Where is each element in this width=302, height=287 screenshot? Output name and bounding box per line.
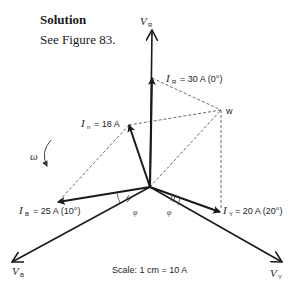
vy-label: V Y [270,267,282,280]
in-label: I n = 18 A [80,117,120,130]
phi-label-right: φ [167,208,172,217]
svg-text:R: R [172,79,177,85]
current-phasors [58,78,220,212]
rotation-indicator: ω [30,140,51,166]
ib-label: I B = 25 A (10°) [18,204,80,217]
vb-label: V B [12,265,24,278]
svg-text:I: I [165,72,171,84]
svg-text:Y: Y [229,211,233,217]
dashed-origin-to-w [150,110,221,187]
iy-label: I Y = 20 A (20°) [222,204,282,217]
phi-angle-marks: φ φ [117,193,180,217]
svg-text:I: I [222,204,228,216]
ir-label: I R = 30 A (0°) [165,72,222,85]
point-w-label: w [225,106,233,116]
ir-arrow [150,78,152,187]
svg-text:V: V [12,265,20,277]
omega-label: ω [30,150,38,162]
dashed-in-to-w [129,110,221,125]
vy-arrow [150,187,282,262]
in-arrow [129,125,150,187]
scale-label: Scale: 1 cm = 10 A [112,265,187,275]
svg-text:R: R [148,22,153,28]
phi-label-left: φ [133,208,138,217]
svg-text:B: B [25,211,29,217]
iy-arrow [150,187,220,212]
svg-text:V: V [140,15,148,27]
dashed-in-to-ib [58,125,129,202]
svg-text:B: B [20,272,24,278]
svg-text:I: I [80,117,86,129]
phasor-diagram: φ φ ω w V R V B V Y I R = 30 A (0°) I n … [0,0,302,287]
svg-text:Y: Y [278,274,282,280]
svg-text:= 25 A (10°): = 25 A (10°) [33,206,80,216]
svg-text:V: V [270,267,278,279]
rotation-arrow-icon [44,140,51,166]
vr-label: V R [140,15,153,28]
voltage-phasors [12,30,282,262]
svg-text:n: n [87,124,90,130]
svg-text:= 18 A: = 18 A [94,119,120,129]
svg-text:= 20 A (20°): = 20 A (20°) [235,206,282,216]
svg-text:I: I [18,204,24,216]
phi-arc-left [117,193,120,203]
svg-text:= 30 A (0°): = 30 A (0°) [180,74,222,84]
